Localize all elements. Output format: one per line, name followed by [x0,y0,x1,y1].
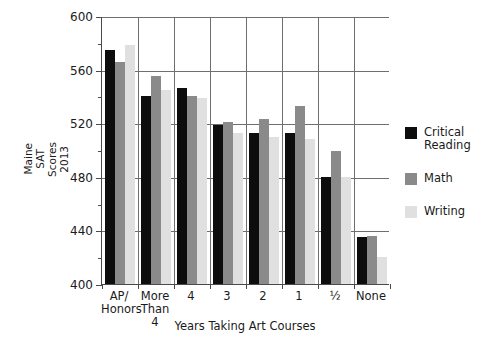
x-axis-label: None [353,290,389,303]
bar [285,133,295,284]
x-axis-tick [390,284,391,289]
y-axis-label: 400 [70,278,93,292]
x-axis-tick [354,284,355,289]
legend-item: Critical Reading [405,126,471,152]
x-axis-label-line: Honors [101,303,137,316]
legend-item: Writing [405,205,471,218]
bar [233,133,243,284]
bar [357,237,367,284]
plot-area: 400440480520560600 [101,17,389,285]
y-axis-title-line-1: Maine [23,143,34,175]
bar [105,50,115,285]
x-axis-tick [102,284,103,289]
x-axis-label: 3 [209,290,245,303]
bar [305,139,315,284]
x-axis-tick [318,284,319,289]
bar [331,151,341,284]
bar [187,96,197,284]
y-axis-label: 440 [70,224,93,238]
x-axis-tick [210,284,211,289]
bar-group [246,17,282,284]
bar [295,106,305,284]
x-axis-label-line: ½ [317,290,353,303]
legend-item: Math [405,172,471,185]
x-axis-label: 1 [281,290,317,303]
bar-group [102,17,138,284]
x-axis-tick [138,284,139,289]
legend-swatch [405,173,417,185]
x-axis-label: 4 [173,290,209,303]
bar [377,257,387,284]
bar [151,76,161,284]
x-axis-label: AP/Honors [101,290,137,316]
bar-group [174,17,210,284]
x-axis-label-line: 2 [245,290,281,303]
x-axis-label-line: None [353,290,389,303]
legend-label: Math [424,172,453,185]
bar [197,98,207,284]
bar-chart: Maine SAT Scores 2013 400440480520560600… [0,0,488,343]
bar [269,137,279,284]
x-axis-tick [174,284,175,289]
bar-group [138,17,174,284]
legend-swatch [405,206,417,218]
bar-group [318,17,354,284]
legend-label: Critical Reading [424,126,471,152]
legend-swatch [405,127,417,139]
legend-label: Writing [424,205,465,218]
y-axis-title-line-2: SAT [35,149,46,169]
bar [341,177,351,284]
x-axis-label: MoreThan4 [137,290,173,329]
x-axis-tick [246,284,247,289]
x-axis-label: ½ [317,290,353,303]
y-axis-label: 480 [70,171,93,185]
bar-group [282,17,318,284]
y-axis-label: 560 [70,64,93,78]
x-axis-label-line: 1 [281,290,317,303]
y-axis-title: Maine SAT Scores 2013 [14,104,78,214]
bar [161,90,171,284]
x-axis-label-line: 4 [137,316,173,329]
bar [321,177,331,284]
bar-group [354,17,390,284]
y-axis-label: 520 [70,117,93,131]
y-axis-title-line-3: Scores [47,142,58,177]
x-axis-label-line: 4 [173,290,209,303]
bar [141,96,151,284]
bar [115,62,125,284]
bar-group [210,17,246,284]
bar [367,236,377,284]
x-axis-label-line: 3 [209,290,245,303]
bar [125,45,135,284]
bar [259,119,269,284]
x-axis-tick [282,284,283,289]
bar [249,133,259,284]
x-axis-label: 2 [245,290,281,303]
y-axis-title-line-4: 2013 [59,146,70,173]
chart-legend: Critical ReadingMathWriting [405,126,471,218]
bar [213,125,223,284]
y-axis-label: 600 [70,10,93,24]
bar [177,88,187,284]
bar [223,122,233,284]
